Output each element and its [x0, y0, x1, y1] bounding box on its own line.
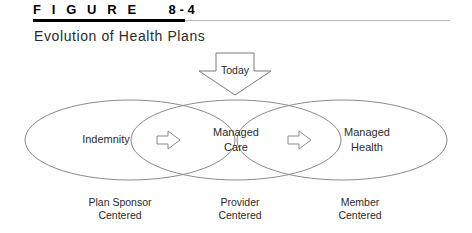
today-label: Today — [221, 64, 250, 76]
stage-ellipse-managed-health — [237, 100, 447, 180]
figure-container: F I G U R E 8-4 Evolution of Health Plan… — [0, 0, 472, 233]
today-marker: Today — [199, 53, 271, 95]
stage-caption-indemnity: Plan Sponsor Centered — [55, 196, 185, 222]
stage-label-managed-health-line2: Health — [351, 141, 383, 153]
stage-label-managed-health-line1: Managed — [344, 126, 390, 138]
evolution-diagram: Today Indemnity Managed Care Managed Hea… — [0, 50, 472, 195]
stage-ellipse-indemnity — [25, 100, 235, 180]
transition-arrow-1 — [157, 131, 180, 149]
right-arrow-icon — [157, 131, 180, 149]
stage-label-managed-care-line1: Managed — [213, 126, 259, 138]
header-rule-thick — [33, 19, 185, 22]
stage-label-managed-care: Managed Care — [213, 126, 259, 153]
stage-caption-managed-care: Provider Centered — [185, 196, 295, 222]
figure-number-label: F I G U R E 8-4 — [33, 2, 198, 17]
stage-label-managed-health: Managed Health — [344, 126, 390, 153]
stage-label-managed-care-line2: Care — [224, 141, 248, 153]
right-arrow-icon — [288, 131, 311, 149]
stage-caption-managed-health: Member Centered — [300, 196, 420, 222]
figure-title: Evolution of Health Plans — [34, 28, 205, 44]
header-rule-thin — [185, 20, 450, 21]
transition-arrow-2 — [288, 131, 311, 149]
stage-label-indemnity: Indemnity — [82, 133, 130, 145]
